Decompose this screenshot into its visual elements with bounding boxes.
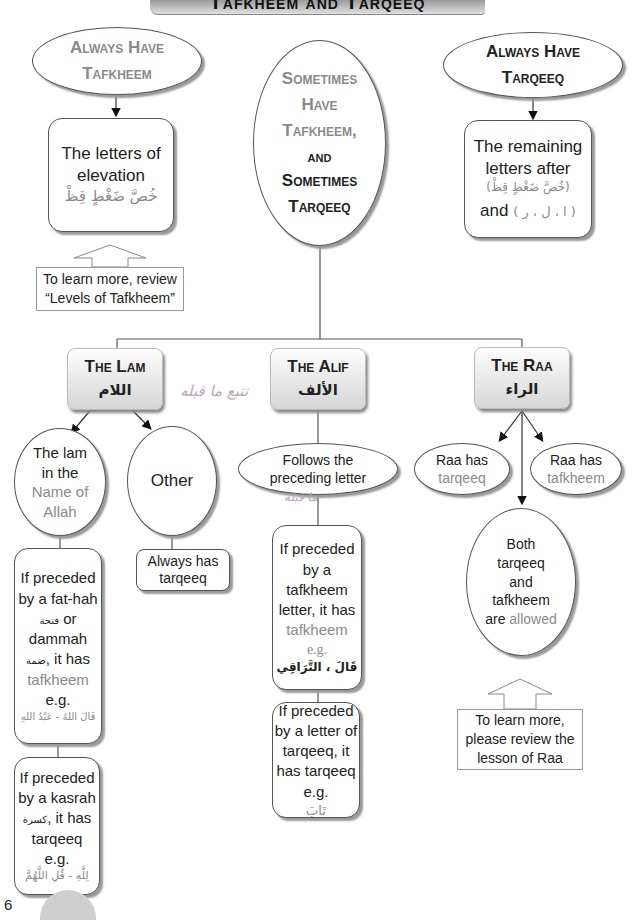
note-text: “Levels of Tafkheem” bbox=[37, 289, 183, 308]
raa-has-tarqeeq-ellipse: Raa has tarqeeq bbox=[414, 443, 510, 495]
rule-text: e.g. bbox=[44, 849, 69, 869]
handwritten-note: ما قبله bbox=[284, 490, 318, 504]
lam-other-ellipse: Other bbox=[127, 426, 217, 536]
rule-text: , it has bbox=[46, 650, 90, 667]
box-text: Always has bbox=[148, 553, 219, 571]
category-raa: The Raa الراء bbox=[474, 347, 570, 409]
ellipse-text: are bbox=[485, 611, 505, 627]
always-tarqeeq-ellipse: Always Have Tarqeeq bbox=[443, 32, 623, 98]
box-text: tarqeeq bbox=[159, 570, 206, 588]
ellipse-text: Raa has bbox=[550, 451, 602, 469]
always-tafkheem-title-line2: Tafkheem bbox=[82, 61, 152, 87]
sometimes-text: Have bbox=[301, 92, 337, 118]
remaining-letters-box: The remaining letters after (خُصَّ ضَغْط… bbox=[464, 120, 592, 238]
arabic-example: لِلَّهِ - قُلِ اللَّهُمَّ bbox=[25, 869, 88, 884]
rule-text: by a fat-hah bbox=[18, 589, 97, 609]
handwritten-note: تتبع ما قبله bbox=[180, 382, 248, 400]
arabic-letters: ( ا ، ل ، ر ) bbox=[513, 204, 576, 219]
arabic-example: تَابَ bbox=[306, 802, 326, 820]
rule-text: If preceded bbox=[279, 539, 354, 559]
rule-text: tarqeeq, it bbox=[283, 741, 350, 761]
ellipse-text: preceding letter bbox=[270, 469, 367, 487]
rule-text: by a kasrah bbox=[18, 788, 96, 808]
category-arabic: اللام bbox=[68, 381, 162, 399]
ellipse-text: tafkheem bbox=[547, 469, 605, 487]
note-text: To learn more, review bbox=[37, 270, 183, 289]
lam-kasrah-rule-box: If preceded by a kasrah كسرة, it has tar… bbox=[14, 757, 100, 895]
rule-text: has tarqeeq bbox=[276, 761, 355, 781]
rule-text: , it has bbox=[47, 809, 91, 826]
rule-result: tarqeeq bbox=[32, 829, 83, 849]
sometimes-text: Tarqeeq bbox=[288, 194, 350, 220]
lam-fathah-rule-box: If preceded by a fat-hah فتحة or dammah … bbox=[14, 548, 102, 744]
box-text: elevation bbox=[77, 165, 145, 187]
note-text: lesson of Raa bbox=[458, 749, 582, 768]
ellipse-text: allowed bbox=[509, 611, 556, 627]
arabic-word: فتحة bbox=[39, 615, 59, 626]
ellipse-text: tarqeeq bbox=[497, 554, 544, 573]
rule-text: e.g. bbox=[45, 690, 70, 710]
sometimes-text: Sometimes bbox=[282, 168, 357, 194]
category-arabic: الألف bbox=[271, 381, 365, 399]
rule-result: tafkheem bbox=[27, 670, 89, 690]
always-has-tarqeeq-box: Always has tarqeeq bbox=[136, 549, 230, 591]
rule-text: e.g. bbox=[307, 641, 327, 660]
rule-text: If preceded bbox=[20, 568, 95, 588]
ellipse-text: Raa has bbox=[436, 451, 488, 469]
arabic-word: ضمة bbox=[26, 655, 46, 666]
rule-text: by a letter of bbox=[275, 721, 358, 741]
lam-name-of-allah-ellipse: The lam in the Name of Allah bbox=[14, 428, 106, 536]
ellipse-text: The lam bbox=[33, 443, 87, 463]
ellipse-text: Both bbox=[507, 535, 536, 554]
category-lam: The Lam اللام bbox=[67, 348, 163, 410]
rule-text: dammah bbox=[29, 629, 87, 649]
ellipse-text: tarqeeq bbox=[438, 469, 485, 487]
arabic-word: كسرة bbox=[23, 814, 47, 825]
header-banner: Tafkheem and Tarqeeq bbox=[150, 0, 485, 15]
raa-both-allowed-ellipse: Both tarqeeq and tafkheem are allowed bbox=[466, 508, 576, 656]
rule-text: or bbox=[63, 610, 76, 627]
lesson-of-raa-note: To learn more, please review the lesson … bbox=[457, 709, 583, 770]
sometimes-text: and bbox=[308, 145, 332, 168]
page-number: 6 bbox=[4, 896, 12, 913]
category-title: The Alif bbox=[271, 357, 365, 377]
box-text: letters after bbox=[485, 158, 570, 180]
follows-preceding-ellipse: Follows the preceding letter bbox=[238, 443, 398, 495]
ellipse-text: in the bbox=[42, 463, 79, 483]
raa-has-tafkheem-ellipse: Raa has tafkheem bbox=[530, 443, 622, 495]
always-tafkheem-ellipse: Always Have Tafkheem bbox=[32, 27, 202, 95]
category-arabic: الراء bbox=[475, 380, 569, 398]
note-text: please review the bbox=[458, 730, 582, 749]
alif-tarqeeq-rule-box: If preceded by a letter of tarqeeq, it h… bbox=[272, 702, 360, 818]
rule-text: If preceded bbox=[19, 768, 94, 788]
ellipse-text: Other bbox=[151, 471, 194, 491]
arabic-letters: (خُصَّ ضَغْطٍ قِظْ) bbox=[486, 180, 570, 196]
ellipse-text: tafkheem bbox=[492, 591, 550, 610]
rule-result: tafkheem bbox=[286, 620, 348, 640]
sometimes-text: Tafkheem, bbox=[282, 118, 356, 144]
rule-text: e.g. bbox=[303, 782, 328, 802]
sometimes-ellipse: Sometimes Have Tafkheem, and Sometimes T… bbox=[253, 40, 386, 246]
letters-of-elevation-box: The letters of elevation خُصَّ ضَغْطٍ قِ… bbox=[48, 118, 174, 232]
arabic-letters: خُصَّ ضَغْطٍ قِظْ bbox=[65, 187, 158, 207]
rule-text: If preceded bbox=[278, 701, 353, 721]
sometimes-text: Sometimes bbox=[282, 66, 357, 92]
levels-of-tafkheem-note: To learn more, review “Levels of Tafkhee… bbox=[36, 267, 184, 311]
ellipse-text: Follows the bbox=[283, 451, 354, 469]
rule-text: letter, it has bbox=[279, 600, 356, 620]
note-text: To learn more, bbox=[458, 711, 582, 730]
ellipse-text: Allah bbox=[43, 502, 76, 522]
rule-text: tafkheem bbox=[286, 580, 348, 600]
always-tarqeeq-title-line2: Tarqeeq bbox=[502, 65, 564, 91]
ellipse-text: Name of bbox=[32, 482, 89, 502]
and-text: and bbox=[480, 201, 508, 220]
category-title: The Lam bbox=[68, 357, 162, 377]
arabic-example: قَالَ اللهُ - عَبْدُ اللهِ bbox=[21, 710, 96, 724]
category-alif: The Alif الألف bbox=[270, 348, 366, 410]
category-title: The Raa bbox=[475, 356, 569, 376]
page-title: Tafkheem and Tarqeeq bbox=[150, 0, 485, 14]
always-tarqeeq-title-line1: Always Have bbox=[486, 39, 580, 65]
box-text: The letters of bbox=[61, 143, 160, 165]
rule-text: by a bbox=[303, 560, 331, 580]
arabic-example: قَالَ ، التَّرَاقِي bbox=[277, 659, 358, 675]
